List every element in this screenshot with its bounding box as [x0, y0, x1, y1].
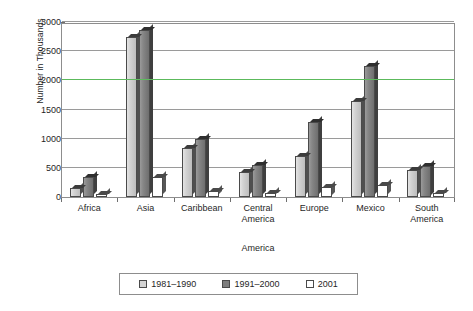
bar-side [150, 24, 153, 194]
legend-label: 1981–1990 [151, 279, 196, 289]
x-tick-mark [117, 198, 118, 202]
plot-area [61, 23, 455, 198]
bar [208, 191, 219, 197]
bar [195, 139, 206, 197]
bar-face [377, 185, 388, 197]
bar-face [208, 191, 219, 197]
bar-group [351, 24, 388, 197]
bar-face [96, 194, 107, 198]
bar [139, 30, 150, 197]
legend-item[interactable]: 1991–2000 [222, 279, 279, 289]
x-tick-mark [399, 198, 400, 202]
bar [377, 185, 388, 197]
y-axis-ticks: 050010001500200025003000 [0, 23, 61, 198]
bar [126, 37, 137, 197]
bar [70, 188, 81, 197]
bar-face [83, 177, 94, 197]
x-axis-label-south-america: SouthAmerica [399, 203, 455, 225]
bar-face [265, 193, 276, 197]
x-tick-mark [454, 198, 455, 202]
bar-face [152, 177, 163, 197]
x-axis-label-mexico: Mexico [342, 203, 398, 214]
x-axis-label-europe: Europe [286, 203, 342, 214]
y-tick-label-0: 0 [15, 193, 61, 202]
bar [96, 194, 107, 198]
y-tick-label-1500: 1500 [15, 106, 61, 115]
y-tick-label-2000: 2000 [15, 76, 61, 85]
bar [351, 101, 362, 197]
bar-group [295, 24, 332, 197]
chart-legend: 1981–19901991–20002001 [119, 273, 358, 295]
bar-face [308, 122, 319, 197]
x-axis-labels: AfricaAsiaCaribbeanCentralAmericaEuropeM… [61, 203, 455, 237]
legend-swatch-icon [139, 280, 147, 288]
bar [265, 193, 276, 197]
bar-face [70, 188, 81, 197]
bar [433, 193, 444, 197]
bar [420, 166, 431, 198]
legend-label: 1991–2000 [234, 279, 279, 289]
bar [239, 172, 250, 197]
bar-group [407, 24, 444, 197]
bar-face [126, 37, 137, 197]
bar-face [364, 66, 375, 197]
bar-group [126, 24, 163, 197]
x-axis-label-asia: Asia [117, 203, 173, 214]
bar-side [362, 95, 365, 194]
bar-face [182, 148, 193, 197]
x-tick-mark [230, 198, 231, 202]
bar-face [407, 170, 418, 197]
bar-side [137, 31, 140, 194]
legend-item[interactable]: 2001 [306, 279, 338, 289]
bar-group [70, 24, 107, 197]
legend-swatch-icon [222, 280, 230, 288]
x-tick-mark [286, 198, 287, 202]
bar [152, 177, 163, 197]
legend-item[interactable]: 1981–1990 [139, 279, 196, 289]
bar-group [182, 24, 219, 197]
y-tick-label-3000: 3000 [15, 18, 61, 27]
bar-side [332, 181, 335, 195]
bar [295, 156, 306, 197]
y-tick-label-2500: 2500 [15, 47, 61, 56]
bar-face [139, 30, 150, 197]
y-tick-label-500: 500 [15, 164, 61, 173]
bar [308, 122, 319, 197]
bar-side [319, 116, 322, 194]
bar-face [433, 193, 444, 197]
y-tick-label-1000: 1000 [15, 135, 61, 144]
x-axis-label-africa: Africa [61, 203, 117, 214]
x-axis-label-central-america: CentralAmerica [230, 203, 286, 225]
x-tick-mark [174, 198, 175, 202]
bar-side [306, 150, 309, 194]
bar [321, 187, 332, 198]
gridline-2000 [62, 79, 454, 80]
bar-group [239, 24, 276, 197]
x-axis-title: America [61, 243, 455, 253]
bar-face [195, 139, 206, 197]
x-tick-mark [342, 198, 343, 202]
bar-face [295, 156, 306, 197]
bar-face [420, 166, 431, 198]
x-tick-mark [61, 198, 62, 202]
bar-face [351, 101, 362, 197]
legend-swatch-icon [306, 280, 314, 288]
bar [182, 148, 193, 197]
bar-side [206, 133, 209, 194]
bar-face [321, 187, 332, 198]
bar-side [193, 142, 196, 194]
x-axis-label-caribbean: Caribbean [174, 203, 230, 214]
legend-label: 2001 [318, 279, 338, 289]
bar-face [239, 172, 250, 197]
bars-layer [62, 24, 454, 197]
bar [83, 177, 94, 197]
bar [407, 170, 418, 197]
gridline-3000 [62, 21, 454, 22]
bar-chart: Number in Thousands 05001000150020002500… [0, 0, 473, 311]
bar [364, 66, 375, 197]
